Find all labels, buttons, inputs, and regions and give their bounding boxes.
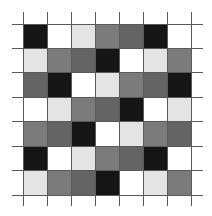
grid-cell: [119, 121, 143, 146]
horizontal-grid-line: [12, 195, 203, 196]
grid-cell: [167, 48, 191, 72]
grid-cell: [23, 24, 47, 48]
grid-cell: [47, 24, 71, 48]
grid-cell: [143, 97, 167, 121]
grid-cell: [95, 24, 119, 48]
horizontal-grid-line: [12, 170, 203, 171]
grid-cell: [143, 146, 167, 170]
grid-cell: [167, 121, 191, 146]
horizontal-grid-line: [12, 97, 203, 98]
grid-cell: [95, 121, 119, 146]
grid-cell: [95, 72, 119, 97]
grid-cell: [95, 146, 119, 170]
vertical-grid-line: [23, 12, 24, 206]
grid-cell: [47, 97, 71, 121]
vertical-grid-line: [119, 12, 120, 206]
grid-cell: [71, 170, 95, 195]
horizontal-grid-line: [12, 48, 203, 49]
grid-cell: [47, 48, 71, 72]
grid-cell: [95, 170, 119, 195]
grid-cell: [71, 121, 95, 146]
vertical-grid-line: [95, 12, 96, 206]
vertical-grid-line: [143, 12, 144, 206]
grid-cell: [95, 97, 119, 121]
grid-cell: [143, 48, 167, 72]
grid-cell: [143, 72, 167, 97]
grid-cell: [47, 121, 71, 146]
grid-cell: [167, 72, 191, 97]
grid-cell: [71, 72, 95, 97]
grid-cell: [167, 24, 191, 48]
grid-cell: [23, 48, 47, 72]
grid-cell: [119, 97, 143, 121]
vertical-grid-line: [71, 12, 72, 206]
grid-cell: [47, 170, 71, 195]
horizontal-grid-line: [12, 121, 203, 122]
grid-cell: [47, 72, 71, 97]
grid-cell: [23, 170, 47, 195]
grid-cell: [71, 24, 95, 48]
vertical-grid-line: [167, 12, 168, 206]
grid-cell: [119, 170, 143, 195]
grid-cell: [143, 24, 167, 48]
grid-cell: [119, 24, 143, 48]
grid-cell: [119, 146, 143, 170]
vertical-grid-line: [191, 12, 192, 206]
grid-cell: [167, 97, 191, 121]
grid-cell: [71, 97, 95, 121]
grid-cell: [47, 146, 71, 170]
grid-cell: [143, 170, 167, 195]
horizontal-grid-line: [12, 72, 203, 73]
grid-cell: [71, 146, 95, 170]
grid-cell: [167, 170, 191, 195]
grid-cell: [167, 146, 191, 170]
horizontal-grid-line: [12, 24, 203, 25]
grid-cell: [23, 121, 47, 146]
grid-cell: [23, 146, 47, 170]
horizontal-grid-line: [12, 146, 203, 147]
grid-cell: [95, 48, 119, 72]
grid-cell: [119, 72, 143, 97]
grid-cell: [23, 97, 47, 121]
grid-cell: [23, 72, 47, 97]
grid-cell: [143, 121, 167, 146]
grid-cell: [119, 48, 143, 72]
grid-cell: [71, 48, 95, 72]
vertical-grid-line: [47, 12, 48, 206]
